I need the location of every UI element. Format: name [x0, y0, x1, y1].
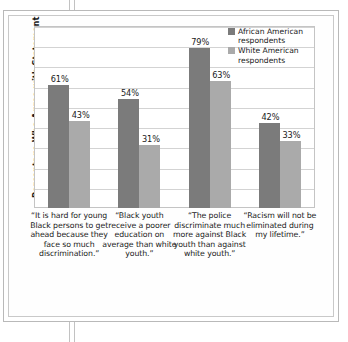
bar-value-label: 54% [117, 88, 142, 98]
x-axis-category-label: “Black youth receive a poorer education … [100, 211, 178, 259]
bar-value-label: 79% [188, 37, 213, 47]
bar [189, 48, 210, 208]
page-gutter-mark-bottom [69, 321, 75, 342]
bar-group: 54%31% [104, 26, 174, 208]
chart-legend: African American respondents White Ameri… [228, 27, 314, 66]
legend-swatch-icon-white-american [228, 47, 235, 54]
bar-value-label: 63% [209, 70, 234, 80]
legend-label-white-american: White American respondents [238, 46, 314, 64]
bar [69, 121, 90, 208]
x-axis-category-label: “Racism will not be eliminated during my… [241, 211, 319, 240]
x-axis-category-label: “The police discriminate much more again… [171, 211, 249, 259]
bar-value-label: 61% [47, 74, 72, 84]
bar-value-label: 33% [279, 130, 304, 140]
bar-group: 61%43% [34, 26, 104, 208]
bar [259, 123, 280, 208]
bar-value-label: 42% [258, 112, 283, 122]
bar [48, 85, 69, 208]
bar-value-label: 31% [138, 134, 163, 144]
bar [139, 145, 160, 208]
bar [118, 99, 139, 208]
legend-swatch-icon-african-american [228, 28, 235, 35]
legend-item-white-american: White American respondents [228, 46, 314, 64]
legend-label-african-american: African American respondents [238, 27, 314, 45]
legend-item-african-american: African American respondents [228, 27, 314, 45]
figure-container: Percentage Who Agree with Statement 61%4… [0, 0, 348, 342]
bar [280, 141, 301, 208]
x-axis-category-label: “It is hard for young Black persons to g… [30, 211, 108, 259]
bar-value-label: 43% [68, 110, 93, 120]
bar [210, 81, 231, 208]
